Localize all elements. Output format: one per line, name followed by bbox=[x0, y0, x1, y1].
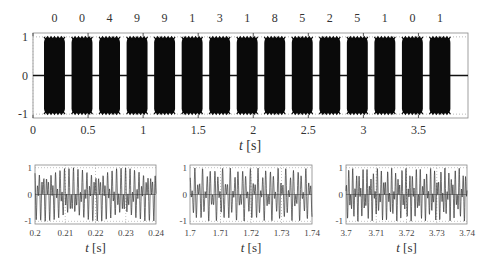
digit-label: 5 bbox=[354, 11, 360, 25]
x-axis-label: t [s] bbox=[239, 138, 261, 153]
y-tick-label: 0 bbox=[22, 69, 28, 83]
y-tick-label: 1 bbox=[183, 163, 188, 173]
digit-label: 8 bbox=[272, 11, 278, 25]
y-tick-label: -1 bbox=[180, 216, 188, 226]
tone-burst bbox=[374, 38, 395, 113]
tone-burst bbox=[264, 38, 285, 113]
x-tick-label: 2.5 bbox=[301, 123, 316, 137]
x-axis-label: t [s] bbox=[396, 240, 417, 255]
y-tick-label: 1 bbox=[28, 163, 33, 173]
figure: 00499131852510100.511.522.533.5-101t [s]… bbox=[0, 0, 493, 264]
digit-label: 0 bbox=[51, 11, 57, 25]
tone-burst bbox=[72, 38, 93, 113]
tone-burst bbox=[347, 38, 368, 113]
tone-burst bbox=[292, 38, 313, 113]
y-tick-label: 0 bbox=[339, 190, 344, 200]
x-tick-label: 1.74 bbox=[304, 228, 320, 238]
y-tick-label: 0 bbox=[28, 190, 33, 200]
y-tick-label: -1 bbox=[25, 216, 33, 226]
tone-burst bbox=[402, 38, 423, 113]
x-tick-label: 0.23 bbox=[118, 228, 134, 238]
zoom-subplot-2 bbox=[190, 165, 312, 224]
digit-label: 5 bbox=[299, 11, 305, 25]
y-tick-label: 1 bbox=[22, 30, 28, 44]
x-tick-label: 3.71 bbox=[368, 228, 384, 238]
digit-label: 1 bbox=[382, 11, 388, 25]
tone-burst bbox=[209, 38, 230, 113]
x-tick-label: 3.72 bbox=[399, 228, 415, 238]
x-tick-label: 0.22 bbox=[88, 228, 104, 238]
x-axis-label: t [s] bbox=[241, 240, 262, 255]
x-tick-label: 1.71 bbox=[213, 228, 229, 238]
x-tick-label: 1.72 bbox=[243, 228, 259, 238]
x-tick-label: 1.5 bbox=[191, 123, 206, 137]
tone-burst bbox=[154, 38, 175, 113]
digit-label: 1 bbox=[437, 11, 443, 25]
x-tick-label: 0.21 bbox=[57, 228, 73, 238]
zoom-subplot-1 bbox=[35, 165, 156, 224]
y-tick-label: -1 bbox=[18, 107, 28, 121]
digit-label: 3 bbox=[217, 11, 223, 25]
digit-label: 9 bbox=[134, 11, 140, 25]
digit-label: 0 bbox=[79, 11, 85, 25]
tone-burst bbox=[44, 38, 65, 113]
x-axis-label: t [s] bbox=[85, 240, 106, 255]
x-tick-label: 0.5 bbox=[81, 123, 96, 137]
x-tick-label: 0.2 bbox=[29, 228, 40, 238]
digit-label: 4 bbox=[107, 11, 113, 25]
zoom-subplot-3 bbox=[346, 165, 467, 224]
main-plot bbox=[33, 33, 468, 118]
tone-burst bbox=[319, 38, 340, 113]
x-tick-label: 0.24 bbox=[148, 228, 164, 238]
x-tick-label: 3.5 bbox=[411, 123, 426, 137]
digit-label: 1 bbox=[189, 11, 195, 25]
digit-label: 9 bbox=[162, 11, 168, 25]
digit-label: 1 bbox=[244, 11, 250, 25]
digit-label: 0 bbox=[409, 11, 415, 25]
x-tick-label: 1 bbox=[140, 123, 146, 137]
x-tick-label: 3.73 bbox=[429, 228, 445, 238]
tone-burst bbox=[429, 38, 450, 113]
y-tick-label: 1 bbox=[339, 163, 344, 173]
digit-label: 2 bbox=[327, 11, 333, 25]
tone-burst bbox=[99, 38, 120, 113]
x-tick-label: 0 bbox=[30, 123, 36, 137]
x-tick-label: 1.7 bbox=[184, 228, 196, 238]
x-tick-label: 3.74 bbox=[459, 228, 475, 238]
x-tick-label: 1.73 bbox=[274, 228, 290, 238]
tone-burst bbox=[237, 38, 258, 113]
y-tick-label: -1 bbox=[336, 216, 344, 226]
x-tick-label: 2 bbox=[250, 123, 256, 137]
tone-burst bbox=[127, 38, 148, 113]
x-tick-label: 3.7 bbox=[340, 228, 352, 238]
tone-burst bbox=[182, 38, 203, 113]
x-tick-label: 3 bbox=[360, 123, 366, 137]
y-tick-label: 0 bbox=[183, 190, 188, 200]
